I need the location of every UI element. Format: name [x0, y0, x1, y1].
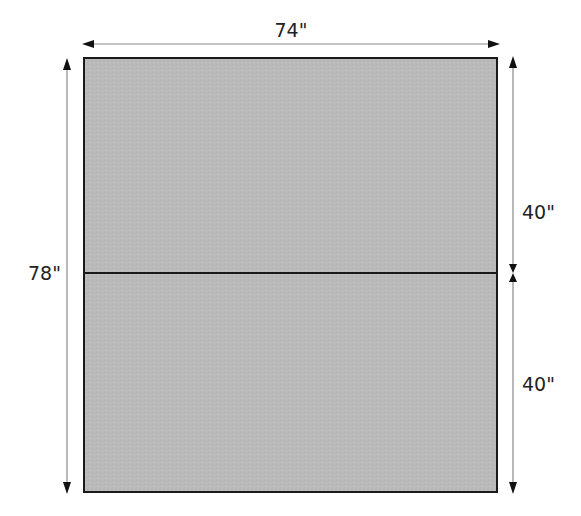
height-label: 78" [28, 262, 61, 284]
arrowhead-down-icon [63, 482, 71, 494]
arrowhead-up-icon [509, 273, 517, 282]
top-panel-dimension-arrow [509, 56, 517, 273]
bottom-panel-dimension-arrow [509, 273, 517, 494]
arrowhead-down-icon [509, 482, 517, 494]
height-dimension-arrow [63, 58, 71, 494]
width-dimension-arrow [82, 40, 500, 48]
bottom-panel [84, 273, 497, 492]
width-label: 74" [275, 19, 308, 41]
arrowhead-down-icon [509, 264, 517, 273]
arrowhead-left-icon [82, 40, 94, 48]
arrowhead-right-icon [488, 40, 500, 48]
bottom-panel-label: 40" [522, 373, 555, 395]
top-panel [84, 58, 497, 273]
arrowhead-up-icon [509, 56, 517, 68]
dimension-diagram: 74" 78" 40" 40" [0, 0, 581, 516]
top-panel-label: 40" [522, 201, 555, 223]
arrowhead-up-icon [63, 58, 71, 70]
